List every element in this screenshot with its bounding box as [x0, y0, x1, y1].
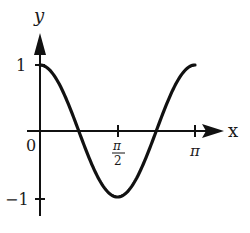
- y-axis-arrow-icon: [34, 33, 46, 55]
- y-axis-label: y: [33, 5, 45, 26]
- origin-label: 0: [26, 136, 36, 155]
- x-axis-label: x: [228, 120, 238, 141]
- y-tick-label-neg1: −1: [5, 190, 29, 209]
- cosine-plot: y x 0 1 −1 π 2 π: [0, 0, 250, 233]
- x-tick-label-pi: π: [189, 142, 201, 160]
- x-tick-label-pi-half-den: 2: [114, 154, 122, 168]
- y-tick-label-1: 1: [16, 56, 26, 75]
- x-tick-label-pi-half-num: π: [112, 139, 122, 153]
